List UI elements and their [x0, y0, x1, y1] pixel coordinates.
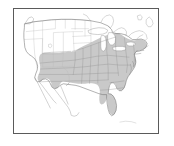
map-svg	[14, 9, 158, 133]
lake-michigan	[101, 36, 106, 52]
lake-ontario	[126, 42, 135, 46]
lake-erie	[113, 46, 126, 50]
range-map-figure	[0, 0, 174, 146]
map-frame	[13, 8, 159, 134]
